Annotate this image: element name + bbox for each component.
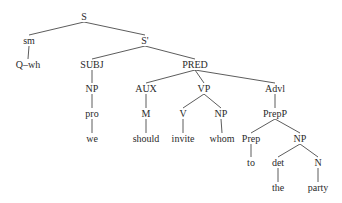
tree-node-advl: Advl: [264, 84, 286, 94]
tree-edge-np3-n: [300, 144, 318, 157]
tree-node-prepp: PrepP: [262, 109, 288, 119]
syntax-tree-diagram: SsmS'Q–whSUBJPREDNPAUXVPAdvlproMVNPPrepP…: [0, 0, 342, 203]
tree-edge-vp-v: [183, 94, 204, 108]
tree-edge-sp-pred: [145, 46, 195, 59]
tree-node-the: the: [271, 183, 285, 193]
tree-node-det: det: [271, 158, 285, 168]
tree-node-pred: PRED: [181, 60, 209, 70]
tree-edge-pred-vp: [195, 70, 204, 83]
tree-node-sp: S': [140, 36, 149, 46]
tree-node-subj: SUBJ: [79, 60, 104, 70]
tree-edge-prepp-np3: [275, 119, 300, 133]
tree-node-qwh: Q–wh: [15, 60, 41, 70]
tree-node-party: party: [307, 183, 330, 193]
tree-edges: [0, 0, 342, 203]
tree-node-np3: NP: [293, 134, 308, 144]
tree-edge-s-sm: [29, 22, 84, 35]
tree-node-prep: Prep: [241, 134, 261, 144]
tree-edge-pred-advl: [195, 70, 275, 83]
tree-edge-np2-whom: [221, 119, 222, 133]
tree-node-m: M: [141, 109, 152, 119]
tree-node-v: V: [178, 109, 187, 119]
tree-edge-prepp-prep: [251, 119, 275, 133]
tree-edge-np3-det: [278, 144, 300, 157]
tree-edge-vp-np2: [204, 94, 221, 108]
tree-node-we: we: [85, 134, 99, 144]
tree-node-np1: NP: [85, 84, 100, 94]
tree-node-whom: whom: [209, 134, 236, 144]
tree-node-should: should: [132, 134, 161, 144]
tree-edge-pred-aux: [146, 70, 195, 83]
tree-node-sm: sm: [22, 36, 36, 46]
tree-node-aux: AUX: [134, 84, 158, 94]
tree-edge-sm-qwh: [28, 46, 29, 59]
tree-node-s: S: [80, 12, 88, 22]
tree-edge-s-sp: [84, 22, 145, 35]
tree-node-np2: NP: [214, 109, 229, 119]
tree-node-invite: invite: [171, 134, 196, 144]
tree-node-to: to: [246, 158, 256, 168]
tree-node-vp: VP: [197, 84, 212, 94]
tree-node-pro: pro: [84, 109, 99, 119]
tree-edge-sp-subj: [92, 46, 145, 59]
tree-node-n: N: [313, 158, 322, 168]
